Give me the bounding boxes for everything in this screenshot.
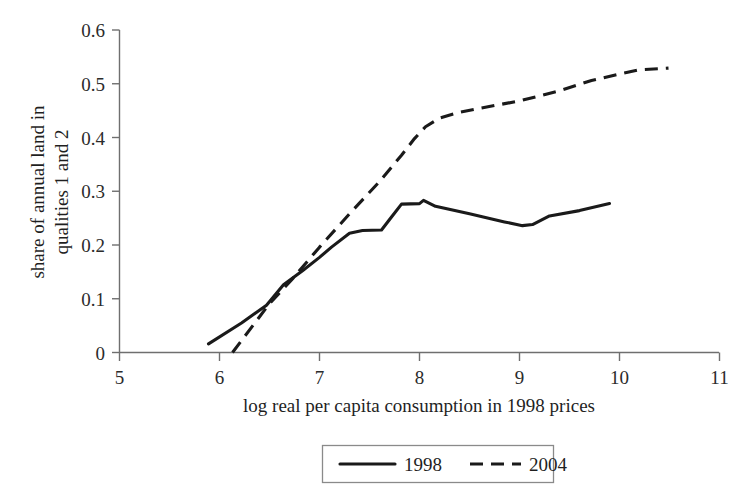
y-axis-title: share of annual land in qualities 1 and … [27,105,72,279]
x-tick-label: 6 [215,367,225,388]
series-line-1998 [209,200,610,344]
legend-label-2004: 2004 [529,454,568,475]
x-tick-label: 9 [515,367,525,388]
y-tick-label: 0.1 [81,289,105,310]
chart-figure: share of annual land in qualities 1 and … [0,0,744,504]
y-axis-ticks: 00.10.20.30.40.50.6 [81,20,119,364]
y-tick-label: 0.2 [81,235,105,256]
x-axis-ticks: 567891011 [115,353,729,389]
legend-label-1998: 1998 [404,454,442,475]
y-tick-label: 0 [96,343,106,364]
line-chart: share of annual land in qualities 1 and … [0,0,744,504]
y-tick-label: 0.4 [81,128,105,149]
y-tick-label: 0.5 [81,74,105,95]
x-tick-label: 10 [610,367,629,388]
data-series-group [209,68,669,352]
y-axis-title-line2: qualities 1 and 2 [51,129,72,254]
chart-legend: 1998 2004 [323,446,568,483]
y-axis-title-line1: share of annual land in [27,105,48,279]
x-tick-label: 8 [415,367,425,388]
axes [119,30,719,353]
x-tick-label: 7 [315,367,325,388]
x-axis-title: log real per capita consumption in 1998 … [243,395,595,416]
y-tick-label: 0.6 [81,20,105,41]
y-tick-label: 0.3 [81,181,105,202]
x-tick-label: 11 [710,367,728,388]
x-tick-label: 5 [115,367,125,388]
